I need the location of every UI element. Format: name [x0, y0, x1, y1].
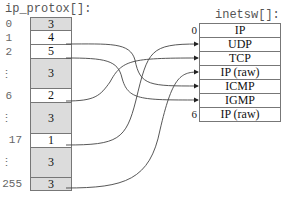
arrow-17-to-udp: [66, 44, 198, 145]
arrow-connectors: [0, 0, 291, 207]
arrow-255-to-ipraw: [66, 72, 198, 188]
